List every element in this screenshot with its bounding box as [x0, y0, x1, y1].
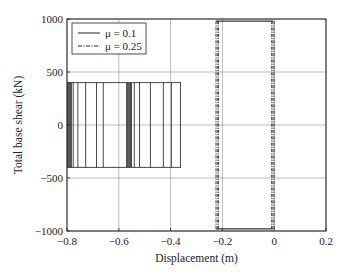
x-tick-label: 0.2	[319, 235, 333, 247]
legend-label-mu-0-1: μ = 0.1	[105, 27, 136, 39]
x-tick-label: −0.4	[161, 235, 181, 247]
y-tick-label: −1000	[35, 225, 64, 237]
x-tick-label: −0.6	[109, 235, 129, 247]
y-tick-label: 500	[47, 66, 64, 78]
y-axis-label: Total base shear (kN)	[12, 76, 25, 175]
y-tick-label: −500	[40, 172, 63, 184]
x-tick-label: 0	[271, 235, 277, 247]
x-tick-label: −0.2	[212, 235, 232, 247]
y-axis-ticks: −1000−50005001000	[35, 13, 70, 237]
hysteresis-chart: −0.8−0.6−0.4−0.200.2 −1000−50005001000 D…	[0, 0, 351, 275]
legend-label-mu-0-25: μ = 0.25	[105, 40, 142, 52]
y-tick-label: 1000	[41, 13, 64, 25]
x-axis-label: Displacement (m)	[155, 252, 238, 265]
y-tick-label: 0	[58, 119, 64, 131]
legend: μ = 0.1 μ = 0.25	[72, 23, 146, 54]
